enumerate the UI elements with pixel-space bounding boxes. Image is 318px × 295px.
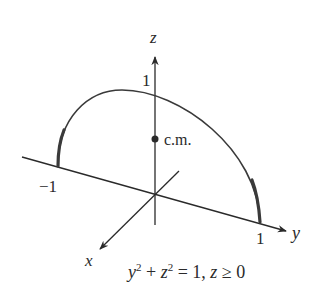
z-tick-1-label: 1 xyxy=(142,71,151,90)
equation-plus: + xyxy=(142,262,161,282)
equation-equals-one: = 1, xyxy=(173,262,210,282)
center-of-mass-label: c.m. xyxy=(164,131,192,148)
y-axis xyxy=(22,157,286,231)
y-tick-1-label: 1 xyxy=(256,229,265,248)
equation-z-var: z xyxy=(160,262,168,282)
semicircle-wire-diagram: z 1 c.m. −1 1 y x y2 + z2 = 1, z ≥ 0 xyxy=(0,0,318,295)
equation-y-var: y xyxy=(126,262,136,282)
semicircle-arc-right-thick xyxy=(252,180,260,222)
equation-z-var-2: z xyxy=(209,262,217,282)
semicircle-arc xyxy=(58,90,260,222)
z-axis-label: z xyxy=(149,28,157,47)
equation-label: y2 + z2 = 1, z ≥ 0 xyxy=(126,261,245,282)
semicircle-arc-left-thick xyxy=(58,130,64,166)
y-tick-neg1-label: −1 xyxy=(39,177,57,196)
center-of-mass-dot xyxy=(152,136,159,143)
x-axis-label: x xyxy=(84,251,93,270)
equation-condition: ≥ 0 xyxy=(217,262,245,282)
diagram-canvas: z 1 c.m. −1 1 y x y2 + z2 = 1, z ≥ 0 xyxy=(0,0,318,295)
y-axis-label: y xyxy=(290,223,300,243)
